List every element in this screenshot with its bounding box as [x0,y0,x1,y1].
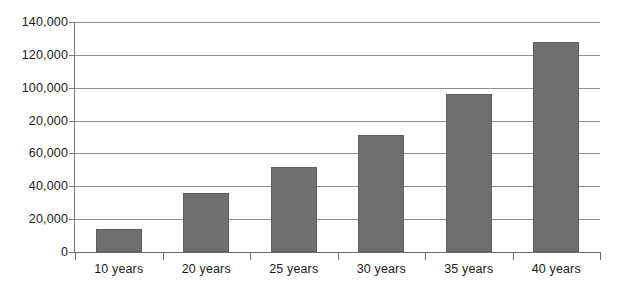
bar [271,167,317,252]
x-axis-tick-label: 35 years [425,262,513,276]
y-axis-tick-label: 0 [0,246,68,258]
x-axis-tick-mark [600,253,601,260]
x-axis-tick-mark [250,253,251,260]
gridline [75,22,600,23]
x-axis-tick-label: 10 years [75,262,163,276]
y-axis-tick-label: 40,000 [0,180,68,192]
x-axis-tick-label: 30 years [338,262,426,276]
x-axis-tick-mark [513,253,514,260]
y-axis-tick-label: 140,000 [0,16,68,28]
y-axis-tick-label: 20,000 [0,213,68,225]
bar [183,193,229,252]
plot-area [75,22,600,252]
x-axis-tick-mark [338,253,339,260]
bar [533,42,579,252]
x-axis-tick-mark [75,253,76,260]
gridline [75,121,600,122]
gridline [75,186,600,187]
y-axis-tick-label: 60,000 [0,147,68,159]
gridline [75,153,600,154]
bar-chart: 020,00040,00060,00020,000100,000120,0001… [0,0,622,289]
x-axis-tick-label: 25 years [250,262,338,276]
x-axis-tick-mark [163,253,164,260]
y-axis-tick-label: 20,000 [0,115,68,127]
y-axis-tick-label: 100,000 [0,82,68,94]
x-axis-tick-label: 40 years [513,262,601,276]
y-axis-labels: 020,00040,00060,00020,000100,000120,0001… [0,0,68,289]
x-axis-labels: 10 years20 years25 years30 years35 years… [75,262,600,284]
bar [96,229,142,252]
x-axis-tick-label: 20 years [163,262,251,276]
bar [358,135,404,252]
y-axis-tick-label: 120,000 [0,49,68,61]
x-axis-tick-mark [425,253,426,260]
bar [446,94,492,252]
gridline [75,55,600,56]
gridline [75,219,600,220]
gridline [75,88,600,89]
